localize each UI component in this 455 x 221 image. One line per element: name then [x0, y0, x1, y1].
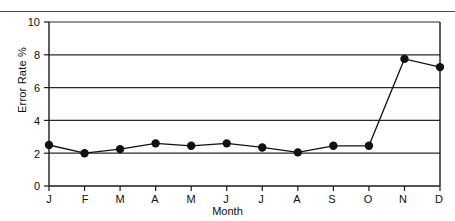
- data-point-december: [436, 63, 444, 71]
- data-point-april: [151, 139, 159, 147]
- data-point-august: [294, 148, 302, 156]
- data-point-september: [329, 142, 337, 150]
- data-point-july: [258, 143, 266, 151]
- data-point-june: [223, 139, 231, 147]
- data-point-january: [45, 141, 53, 149]
- gridlines: [49, 22, 440, 153]
- data-point-october: [365, 142, 373, 150]
- data-point-february: [80, 149, 88, 157]
- axes: [49, 22, 440, 186]
- data-markers: [45, 55, 444, 158]
- data-point-march: [116, 145, 124, 153]
- data-point-november: [400, 55, 408, 63]
- chart-figure: Error Rate % 10 8 6 4 2 0 J F M A M J J …: [0, 0, 455, 221]
- y-tick-marks: [44, 22, 49, 186]
- data-point-may: [187, 142, 195, 150]
- data-line-error-rate: [49, 59, 440, 153]
- x-tick-marks: [49, 186, 440, 191]
- chart-plot-area: [0, 0, 455, 221]
